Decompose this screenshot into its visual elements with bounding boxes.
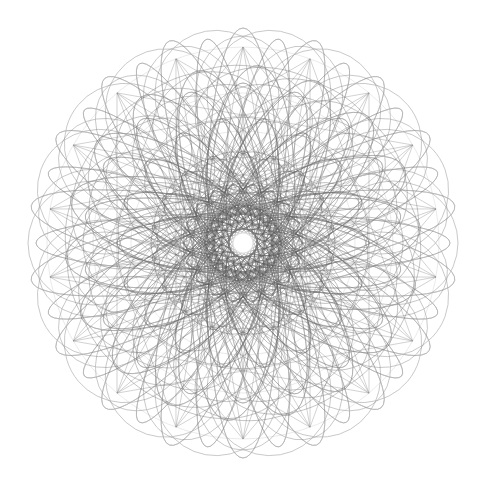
artboard bbox=[0, 0, 487, 498]
center-void-circle bbox=[234, 234, 253, 253]
center-void-group bbox=[229, 229, 257, 257]
spirograph-rosette-figure bbox=[0, 0, 487, 498]
